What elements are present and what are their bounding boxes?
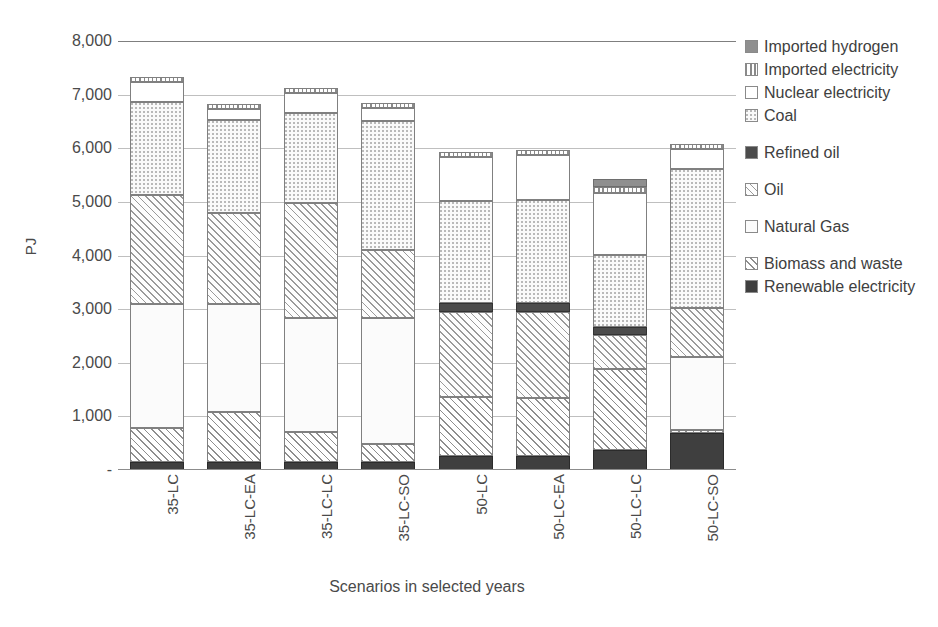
bar-segment-oil[interactable] [284, 203, 338, 318]
x-axis-tick-labels: 35-LC35-LC-EA35-LC-LC35-LC-SO50-LC50-LC-… [118, 474, 736, 574]
legend-swatch-white-icon [745, 220, 758, 233]
bar-segment-renewable-electricity[interactable] [516, 456, 570, 470]
bar-50-LC[interactable] [439, 157, 493, 470]
bar-segment-oil[interactable] [670, 308, 724, 357]
axis-baseline [118, 469, 736, 470]
bar-segment-imported-electricity[interactable] [207, 104, 261, 109]
legend-item-imported-hydrogen[interactable]: Imported hydrogen [745, 36, 935, 57]
legend-swatch-solid-grey-icon [745, 40, 758, 53]
bar-segment-imported-electricity[interactable] [361, 103, 415, 108]
bar-segment-biomass-and-waste[interactable] [361, 444, 415, 462]
bar-segment-imported-hydrogen[interactable] [593, 179, 647, 187]
legend-item-imported-electricity[interactable]: Imported electricity [745, 59, 935, 80]
bar-35-LC-EA[interactable] [207, 104, 261, 470]
bar-segment-nuclear-electricity[interactable] [593, 193, 647, 255]
bar-segment-oil[interactable] [439, 312, 493, 397]
bar-segment-biomass-and-waste[interactable] [284, 432, 338, 462]
bar-segment-oil[interactable] [207, 213, 261, 304]
bar-segment-coal[interactable] [670, 169, 724, 308]
chart-legend: Imported hydrogenImported electricityNuc… [745, 36, 935, 299]
bar-segment-coal[interactable] [207, 120, 261, 212]
legend-spacer [745, 202, 935, 216]
legend-item-coal[interactable]: Coal [745, 105, 935, 126]
bar-segment-coal[interactable] [130, 102, 184, 195]
bar-segment-imported-electricity[interactable] [516, 150, 570, 155]
bar-segment-oil[interactable] [516, 312, 570, 398]
bar-segment-biomass-and-waste[interactable] [670, 430, 724, 433]
bar-50-LC-LC[interactable] [593, 179, 647, 470]
legend-swatch-diagonal-hatch-icon [745, 183, 758, 196]
y-axis-tick-label: 2,000 [72, 354, 112, 372]
legend-item-oil[interactable]: Oil [745, 179, 935, 200]
legend-spacer [745, 128, 935, 142]
legend-label: Natural Gas [764, 216, 849, 237]
bar-segment-coal[interactable] [439, 201, 493, 303]
legend-swatch-diagonal-hatch-icon [745, 257, 758, 270]
bar-segment-imported-electricity[interactable] [284, 88, 338, 93]
legend-item-biomass-and-waste[interactable]: Biomass and waste [745, 253, 935, 274]
bar-segment-biomass-and-waste[interactable] [439, 397, 493, 456]
legend-swatch-solid-dark-grey-icon [745, 146, 758, 159]
bar-segment-oil[interactable] [361, 250, 415, 319]
bar-segment-biomass-and-waste[interactable] [207, 412, 261, 462]
y-axis-tick-label: - [107, 461, 112, 479]
bar-35-LC-SO[interactable] [361, 103, 415, 470]
bar-segment-coal[interactable] [284, 113, 338, 203]
bar-35-LC[interactable] [130, 77, 184, 470]
x-axis-tick-label-50-LC-SO: 50-LC-SO [704, 474, 721, 542]
legend-item-renewable-electricity[interactable]: Renewable electricity [745, 276, 935, 297]
bar-segment-biomass-and-waste[interactable] [130, 428, 184, 462]
legend-label: Renewable electricity [764, 276, 915, 297]
y-axis-tick-label: 8,000 [72, 32, 112, 50]
y-axis-tick-label: 1,000 [72, 407, 112, 425]
legend-label: Coal [764, 105, 797, 126]
x-axis-tick-label-35-LC-SO: 35-LC-SO [395, 474, 412, 542]
bar-segment-oil[interactable] [593, 335, 647, 368]
bar-segment-nuclear-electricity[interactable] [516, 155, 570, 200]
bar-segment-imported-electricity[interactable] [439, 152, 493, 157]
bar-segment-refined-oil[interactable] [439, 303, 493, 312]
bar-segment-refined-oil[interactable] [593, 327, 647, 335]
legend-item-refined-oil[interactable]: Refined oil [745, 142, 935, 163]
x-axis-title: Scenarios in selected years [118, 578, 736, 596]
bar-segment-renewable-electricity[interactable] [593, 450, 647, 470]
bar-segment-imported-electricity[interactable] [593, 187, 647, 193]
bar-segment-natural-gas[interactable] [284, 318, 338, 432]
legend-swatch-white-icon [745, 86, 758, 99]
bar-segment-imported-electricity[interactable] [670, 144, 724, 149]
bar-segment-refined-oil[interactable] [516, 303, 570, 312]
bar-segment-renewable-electricity[interactable] [439, 456, 493, 470]
x-axis-tick-label-50-LC-LC: 50-LC-LC [627, 474, 644, 539]
bar-series-container [118, 41, 736, 470]
bar-segment-coal[interactable] [516, 200, 570, 303]
bar-segment-coal[interactable] [593, 255, 647, 327]
bar-segment-nuclear-electricity[interactable] [284, 93, 338, 113]
bar-50-LC-SO[interactable] [670, 144, 724, 470]
x-axis-tick-label-35-LC-LC: 35-LC-LC [318, 474, 335, 539]
legend-item-nuclear-electricity[interactable]: Nuclear electricity [745, 82, 935, 103]
legend-swatch-vertical-stripes-icon [745, 63, 758, 76]
legend-item-natural-gas[interactable]: Natural Gas [745, 216, 935, 237]
bar-segment-coal[interactable] [361, 121, 415, 250]
bar-segment-natural-gas[interactable] [130, 304, 184, 428]
bar-segment-biomass-and-waste[interactable] [516, 398, 570, 456]
bar-50-LC-EA[interactable] [516, 157, 570, 470]
bar-segment-renewable-electricity[interactable] [670, 433, 724, 470]
legend-label: Oil [764, 179, 784, 200]
bar-segment-natural-gas[interactable] [361, 318, 415, 443]
bar-segment-natural-gas[interactable] [207, 304, 261, 412]
legend-spacer [745, 165, 935, 179]
bar-segment-biomass-and-waste[interactable] [593, 369, 647, 451]
bar-35-LC-LC[interactable] [284, 88, 338, 470]
bar-segment-nuclear-electricity[interactable] [361, 108, 415, 121]
bar-segment-natural-gas[interactable] [670, 357, 724, 430]
y-axis-tick-label: 4,000 [72, 247, 112, 265]
bar-segment-nuclear-electricity[interactable] [130, 82, 184, 102]
bar-segment-nuclear-electricity[interactable] [439, 157, 493, 202]
bar-segment-nuclear-electricity[interactable] [670, 149, 724, 169]
bar-segment-nuclear-electricity[interactable] [207, 109, 261, 121]
bar-segment-imported-electricity[interactable] [130, 77, 184, 82]
stacked-bar-chart: PJ 8,0007,0006,0005,0004,0003,0002,0001,… [0, 0, 938, 627]
bar-segment-oil[interactable] [130, 195, 184, 304]
legend-swatch-fine-dots-icon [745, 109, 758, 122]
